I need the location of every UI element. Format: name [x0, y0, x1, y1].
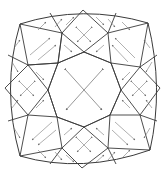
girdle-rays	[12, 17, 152, 162]
cushion-cut-facet-diagram	[0, 0, 165, 176]
table-rays	[66, 70, 102, 110]
girdle-outline	[11, 14, 157, 164]
